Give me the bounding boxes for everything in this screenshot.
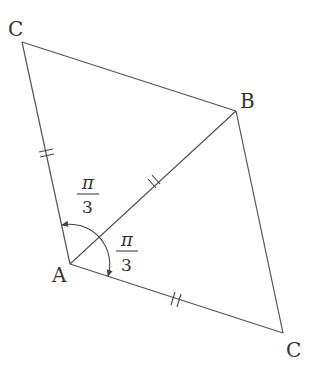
edge-a-c-bottom bbox=[70, 264, 283, 333]
edge-b-c-bottom bbox=[236, 111, 283, 333]
angle-upper-numerator: π bbox=[81, 172, 95, 193]
angle-label-upper: π 3 bbox=[77, 172, 99, 217]
tick-mark-a-b bbox=[148, 175, 160, 188]
geometry-diagram: C B A C π 3 π 3 bbox=[0, 0, 322, 384]
tick-mark-a-c-bottom bbox=[171, 292, 181, 307]
edge-a-c-top bbox=[22, 42, 70, 264]
vertex-label-a: A bbox=[51, 263, 67, 287]
vertex-label-c-bottom: C bbox=[286, 338, 301, 362]
vertex-label-c-top: C bbox=[8, 17, 23, 41]
angle-upper-denominator: 3 bbox=[82, 197, 93, 217]
edge-a-b bbox=[70, 111, 236, 264]
vertex-label-b: B bbox=[240, 89, 255, 113]
angle-lower-numerator: π bbox=[120, 229, 134, 250]
angle-label-lower: π 3 bbox=[116, 229, 138, 275]
angle-lower-denominator: 3 bbox=[121, 255, 132, 275]
edge-c-top-b bbox=[22, 42, 236, 111]
